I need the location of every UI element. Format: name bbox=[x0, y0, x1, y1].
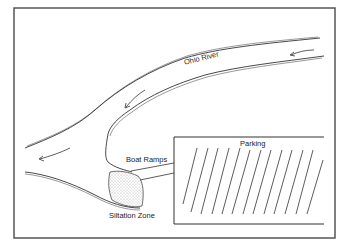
site-diagram bbox=[0, 0, 345, 246]
parking-stripes bbox=[183, 148, 323, 214]
river-upper-bank bbox=[25, 37, 320, 148]
siltation-zone-label: Siltation Zone bbox=[109, 211, 155, 220]
siltation-zone bbox=[109, 171, 144, 207]
flow-arrow-icon bbox=[39, 148, 70, 161]
boat-ramps-label: Boat Ramps bbox=[126, 155, 167, 164]
flow-arrow-icon bbox=[290, 50, 314, 56]
parking-label: Parking bbox=[240, 139, 265, 148]
parking-lot bbox=[174, 137, 324, 224]
flow-arrows bbox=[39, 50, 314, 161]
